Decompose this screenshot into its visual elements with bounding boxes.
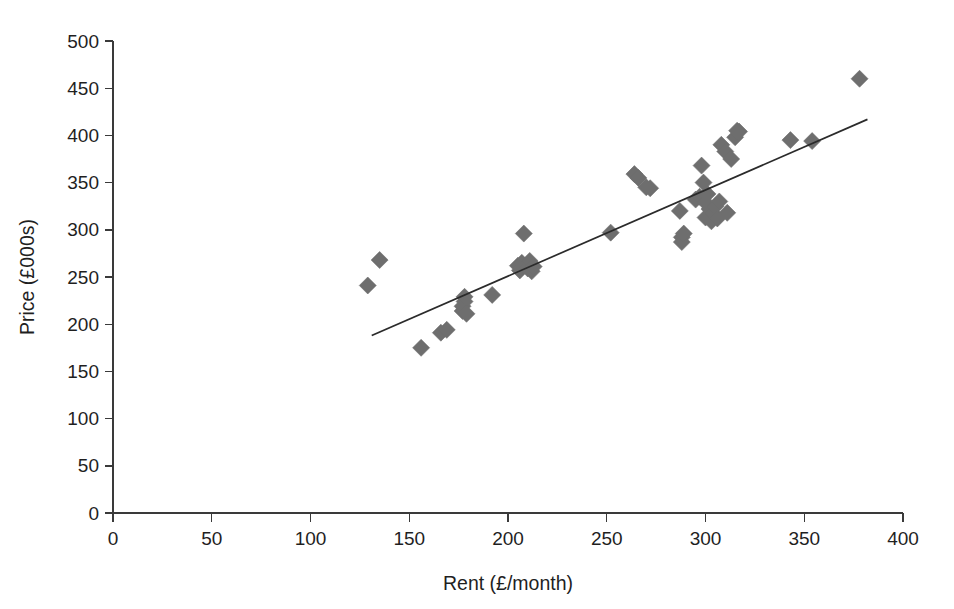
y-tick-label: 450: [67, 78, 99, 99]
data-point-marker: [782, 132, 799, 149]
y-tick-label: 400: [67, 125, 99, 146]
data-point-marker: [851, 70, 868, 87]
x-tick-label: 0: [108, 528, 119, 549]
x-tick-label: 200: [492, 528, 524, 549]
data-points: [359, 70, 868, 356]
y-tick-label: 300: [67, 219, 99, 240]
trend-line: [372, 119, 868, 335]
x-tick-label: 300: [690, 528, 722, 549]
y-tick-label: 350: [67, 172, 99, 193]
y-tick-label: 50: [78, 455, 99, 476]
x-tick-label: 150: [393, 528, 425, 549]
data-point-marker: [515, 225, 532, 242]
x-tick-label: 400: [887, 528, 919, 549]
data-point-marker: [671, 202, 688, 219]
y-tick-label: 500: [67, 31, 99, 52]
x-tick-label: 350: [788, 528, 820, 549]
y-axis-ticks: 050100150200250300350400450500: [67, 31, 113, 524]
x-axis-title: Rent (£/month): [443, 572, 573, 594]
data-point-marker: [484, 286, 501, 303]
x-tick-label: 100: [295, 528, 327, 549]
y-tick-label: 250: [67, 267, 99, 288]
data-point-marker: [602, 224, 619, 241]
data-point-marker: [371, 252, 388, 269]
scatter-plot: 050100150200250300350400450500 050100150…: [0, 0, 954, 609]
data-point-marker: [693, 157, 710, 174]
y-tick-label: 0: [88, 503, 99, 524]
y-tick-label: 150: [67, 361, 99, 382]
x-axis-ticks: 050100150200250300350400: [108, 513, 919, 549]
data-point-marker: [359, 277, 376, 294]
x-tick-label: 250: [591, 528, 623, 549]
x-tick-label: 50: [201, 528, 222, 549]
y-axis-title: Price (£000s): [16, 219, 38, 335]
chart-container: 050100150200250300350400450500 050100150…: [0, 0, 954, 609]
y-tick-label: 200: [67, 314, 99, 335]
y-tick-label: 100: [67, 408, 99, 429]
data-point-marker: [413, 339, 430, 356]
